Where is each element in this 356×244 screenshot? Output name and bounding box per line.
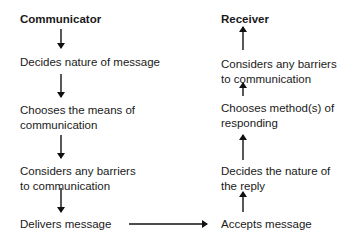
receiver-step-3-line1: Decides the nature of	[221, 164, 330, 178]
communicator-step-1: Decides nature of message	[20, 55, 160, 69]
receiver-step-4: Accepts message	[221, 217, 312, 231]
communicator-step-3-line1: Considers any barriers	[20, 164, 136, 178]
receiver-title: Receiver	[221, 12, 269, 26]
communicator-step-3-line2: to communication	[20, 179, 110, 193]
receiver-step-1-line2: to communication	[221, 72, 311, 86]
receiver-step-2-line2: responding	[221, 116, 278, 130]
receiver-step-1-line1: Considers any barriers	[221, 57, 337, 71]
receiver-step-3-line2: the reply	[221, 179, 265, 193]
communicator-step-4: Delivers message	[20, 217, 111, 231]
communicator-title: Communicator	[20, 12, 101, 26]
communicator-step-2-line1: Chooses the means of	[20, 103, 135, 117]
receiver-step-2-line1: Chooses method(s) of	[221, 101, 334, 115]
communicator-step-2-line2: communication	[20, 118, 97, 132]
